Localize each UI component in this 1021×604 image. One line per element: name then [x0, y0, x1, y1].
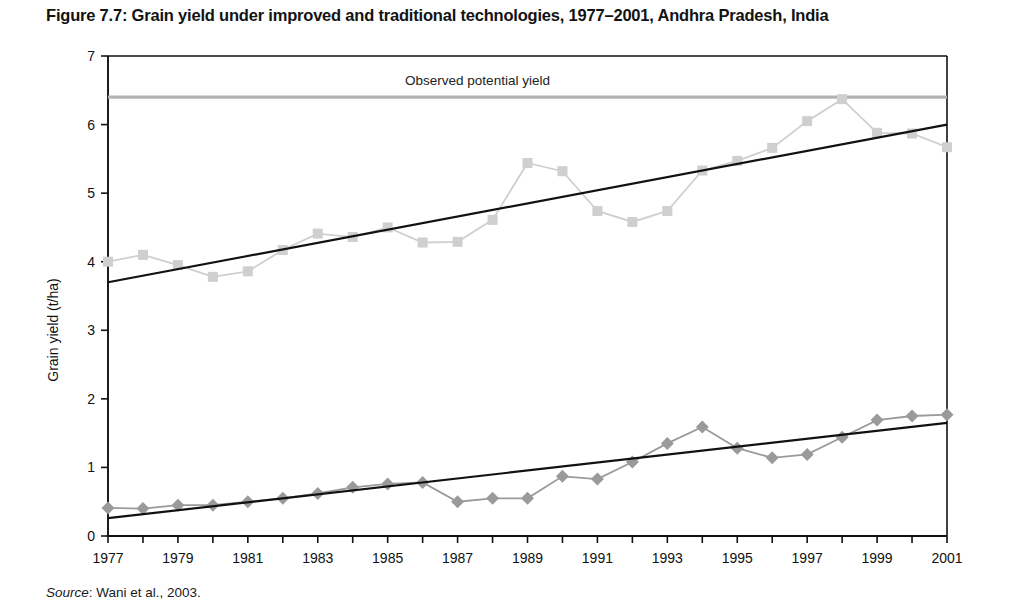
improved-data-point [488, 215, 498, 225]
traditional-data-point [836, 431, 849, 444]
traditional-data-point [556, 470, 569, 483]
y-axis-title: Grain yield (t/ha) [45, 278, 61, 381]
improved-data-point [592, 206, 602, 216]
improved-data-point [523, 158, 533, 168]
traditional-data-point [591, 473, 604, 486]
improved-data-point [208, 272, 218, 282]
improved-data-point [767, 143, 777, 153]
improved-data-point [138, 250, 148, 260]
improved-data-point [942, 142, 952, 152]
y-axis-tick-label: 3 [87, 322, 95, 338]
x-axis-tick-label: 1991 [582, 550, 613, 566]
traditional-data-point [766, 451, 779, 464]
y-axis-tick-label: 4 [87, 254, 95, 270]
y-axis-tick-label: 2 [87, 391, 95, 407]
traditional-data-point [102, 501, 115, 514]
source-text: : Wani et al., 2003. [89, 585, 201, 600]
traditional-data-point [906, 410, 919, 423]
improved-data-point [418, 238, 428, 248]
traditional-data-point [941, 408, 954, 421]
improved-data-point [802, 116, 812, 126]
source-label: Source [46, 585, 89, 600]
improved-data-point [627, 217, 637, 227]
traditional-data-point [801, 448, 814, 461]
x-axis-tick-label: 1983 [302, 550, 333, 566]
potential-yield-label: Observed potential yield [405, 73, 550, 88]
y-axis-tick-label: 5 [87, 185, 95, 201]
x-axis-tick-label: 1977 [92, 550, 123, 566]
x-axis-tick-label: 1985 [372, 550, 403, 566]
traditional-data-point [871, 414, 884, 427]
improved-data-point [453, 237, 463, 247]
y-axis-tick-label: 1 [87, 459, 95, 475]
x-axis-tick-label: 1981 [232, 550, 263, 566]
y-axis-tick-label: 7 [87, 48, 95, 64]
x-axis-tick-label: 1997 [792, 550, 823, 566]
x-axis-tick-label: 1993 [652, 550, 683, 566]
improved-data-point [662, 206, 672, 216]
source-note: Source: Wani et al., 2003. [46, 585, 201, 600]
x-axis-tick-label: 1989 [512, 550, 543, 566]
y-axis-tick-label: 0 [87, 528, 95, 544]
traditional-data-point [521, 492, 534, 505]
improved-series-line [108, 99, 947, 277]
improved-data-point [557, 166, 567, 176]
chart-plot: 01234567Grain yield (t/ha)19771979198119… [0, 0, 1021, 604]
x-axis-tick-label: 1995 [722, 550, 753, 566]
traditional-data-point [696, 420, 709, 433]
improved-data-point [837, 94, 847, 104]
x-axis-tick-label: 1999 [862, 550, 893, 566]
x-axis-tick-label: 2001 [931, 550, 962, 566]
improved-data-point [243, 266, 253, 276]
traditional-data-point [451, 495, 464, 508]
improved-trend-line [108, 125, 947, 283]
improved-data-point [103, 257, 113, 267]
x-axis-tick-label: 1979 [162, 550, 193, 566]
traditional-data-point [486, 492, 499, 505]
improved-data-point [313, 229, 323, 239]
traditional-data-point [661, 437, 674, 450]
x-axis-tick-label: 1987 [442, 550, 473, 566]
traditional-data-point [381, 477, 394, 490]
y-axis-tick-label: 6 [87, 117, 95, 133]
